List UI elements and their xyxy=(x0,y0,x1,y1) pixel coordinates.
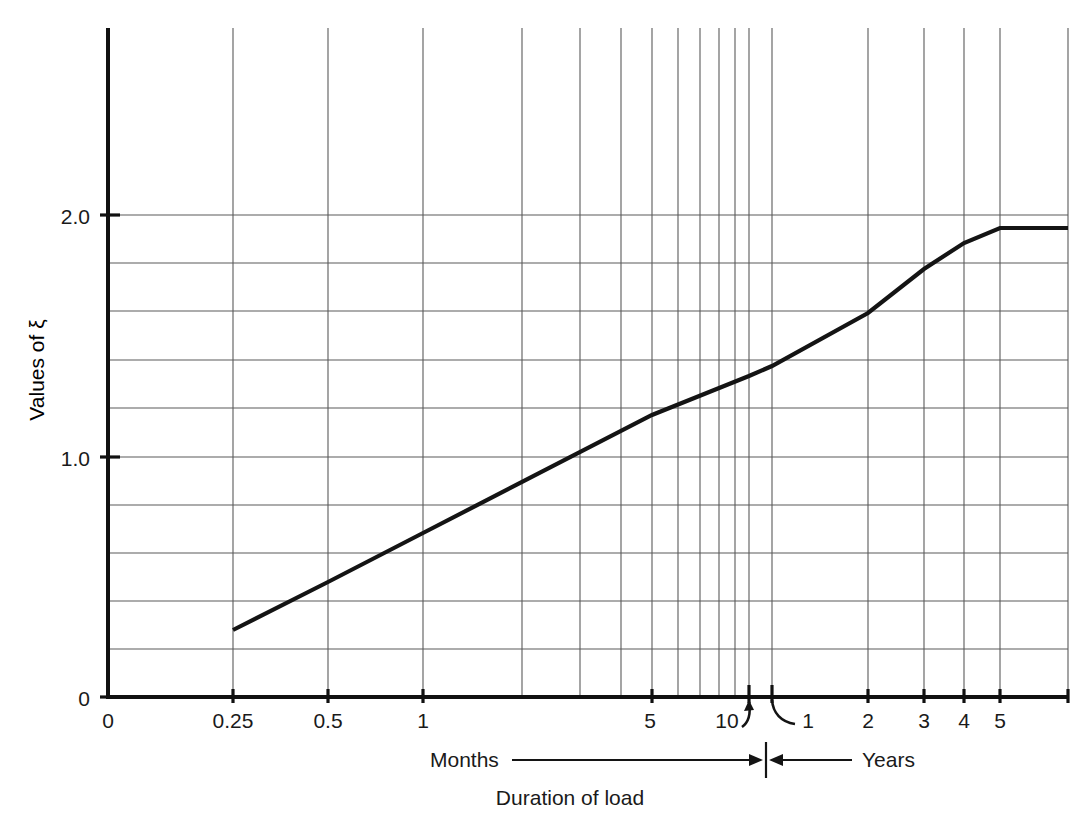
chart-figure: 2.0 1.0 0 0 0.25 0.5 1 5 10 1 2 3 4 5 Mo… xyxy=(0,0,1088,829)
figure-background xyxy=(0,0,1088,829)
x-tick-label-0.5-months: 0.5 xyxy=(313,709,342,732)
y-tick-label-0: 0 xyxy=(78,687,90,710)
y-tick-label-1.0: 1.0 xyxy=(61,447,90,470)
x-axis-title: Duration of load xyxy=(496,786,644,809)
x-tick-label-10-months: 10 xyxy=(715,709,738,732)
years-range-label: Years xyxy=(862,748,915,771)
x-tick-label-0.25-months: 0.25 xyxy=(213,709,254,732)
x-tick-label-2-years: 2 xyxy=(862,709,874,732)
x-tick-label-1-month: 1 xyxy=(417,709,429,732)
x-tick-label-4-years: 4 xyxy=(958,709,970,732)
y-tick-label-2.0: 2.0 xyxy=(61,205,90,228)
x-tick-label-3-years: 3 xyxy=(918,709,930,732)
x-tick-label-5-months: 5 xyxy=(644,709,656,732)
months-range-label: Months xyxy=(430,748,499,771)
x-tick-label-5-years: 5 xyxy=(994,709,1006,732)
y-axis-title: Values of ξ xyxy=(25,319,48,420)
x-tick-label-1-year: 1 xyxy=(802,709,814,732)
x-tick-label-origin: 0 xyxy=(102,709,114,732)
chart-canvas: 2.0 1.0 0 0 0.25 0.5 1 5 10 1 2 3 4 5 Mo… xyxy=(0,0,1088,829)
